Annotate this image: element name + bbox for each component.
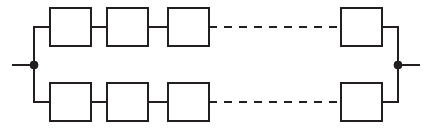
bottom-block-n[interactable] (341, 83, 382, 121)
bottom-branch-group (33, 83, 399, 121)
right-terminal-node[interactable] (394, 61, 402, 69)
top-block-n[interactable] (341, 8, 382, 46)
top-block-1[interactable] (50, 8, 91, 46)
top-branch-group (33, 8, 399, 46)
bottom-block-2[interactable] (107, 83, 148, 121)
left-terminal-node[interactable] (30, 61, 38, 69)
bottom-block-3[interactable] (168, 83, 209, 121)
bottom-block-1[interactable] (50, 83, 91, 121)
block-diagram-svg (0, 0, 427, 132)
block-diagram-canvas (0, 0, 427, 132)
top-block-3[interactable] (168, 8, 209, 46)
top-block-2[interactable] (107, 8, 148, 46)
